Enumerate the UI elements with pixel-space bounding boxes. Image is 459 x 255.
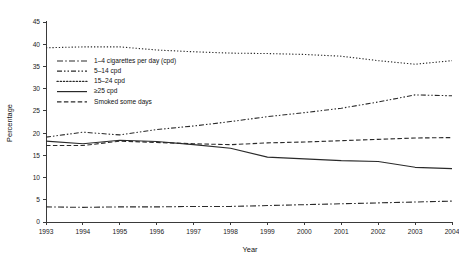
- x-axis-ticks: 1993199419951996199719981999200020012002…: [39, 222, 459, 235]
- y-axis-title: Percentage: [5, 104, 14, 142]
- legend-label-3: ≥25 cpd: [94, 87, 118, 95]
- x-tick-label: 2000: [297, 228, 312, 235]
- y-tick-label: 15: [33, 152, 41, 159]
- series-line-3: [46, 140, 452, 168]
- series-line-0: [46, 201, 452, 207]
- line-chart: 051015202530354045 199319941995199619971…: [0, 0, 459, 255]
- x-tick-label: 2002: [371, 228, 386, 235]
- y-tick-label: 30: [33, 85, 41, 92]
- x-tick-label: 1993: [39, 228, 54, 235]
- legend-label-4: Smoked some days: [94, 98, 153, 106]
- x-tick-label: 1995: [112, 228, 127, 235]
- y-tick-label: 40: [33, 41, 41, 48]
- y-tick-label: 10: [33, 174, 41, 181]
- x-tick-label: 1999: [260, 228, 275, 235]
- legend-label-0: 1–4 cigarettes per day (cpd): [94, 57, 176, 65]
- y-tick-label: 45: [33, 18, 41, 25]
- legend-label-2: 15–24 cpd: [94, 77, 125, 85]
- chart-axes: [46, 21, 452, 222]
- x-tick-label: 2004: [445, 228, 459, 235]
- y-tick-label: 25: [33, 107, 41, 114]
- chart-container: 051015202530354045 199319941995199619971…: [0, 0, 459, 255]
- x-tick-label: 2001: [334, 228, 349, 235]
- legend-label-1: 5–14 cpd: [94, 67, 121, 75]
- y-tick-label: 35: [33, 63, 41, 70]
- y-tick-label: 20: [33, 130, 41, 137]
- x-tick-label: 1998: [223, 228, 238, 235]
- x-tick-label: 1994: [76, 228, 91, 235]
- x-tick-label: 1996: [149, 228, 164, 235]
- chart-legend: 1–4 cigarettes per day (cpd)5–14 cpd15–2…: [57, 57, 176, 106]
- x-tick-label: 2003: [408, 228, 423, 235]
- y-tick-label: 5: [36, 196, 40, 203]
- x-axis-title: Year: [243, 245, 258, 254]
- y-tick-label: 0: [36, 218, 40, 225]
- y-axis-ticks: 051015202530354045: [33, 18, 46, 225]
- x-tick-label: 1997: [186, 228, 201, 235]
